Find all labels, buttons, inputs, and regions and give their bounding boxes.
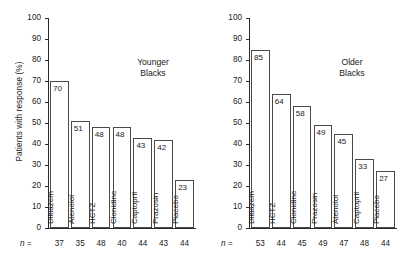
y-tick bbox=[246, 144, 249, 145]
y-tick-label: 50 bbox=[17, 119, 41, 127]
y-tick bbox=[246, 39, 249, 40]
y-tick-label: 30 bbox=[17, 161, 41, 169]
bar-category-label: Prazosin bbox=[311, 193, 319, 224]
y-tick bbox=[45, 39, 48, 40]
bar-category-label: Placebo bbox=[172, 195, 180, 224]
x-axis-spine bbox=[249, 228, 397, 229]
bar-category-label: Captopril bbox=[131, 192, 139, 224]
y-tick-label: 70 bbox=[17, 77, 41, 85]
y-tick bbox=[246, 60, 249, 61]
bar-value-label: 45 bbox=[337, 137, 346, 146]
bar-value-label: 23 bbox=[178, 183, 187, 192]
bar: 64HCTZ bbox=[272, 94, 291, 228]
y-tick bbox=[246, 228, 249, 229]
x-axis-spine bbox=[48, 228, 196, 229]
y-tick-label: 100 bbox=[218, 14, 242, 22]
y-tick-label: 60 bbox=[218, 98, 242, 106]
bar-category-label: Clonidine bbox=[290, 191, 298, 224]
y-tick bbox=[45, 228, 48, 229]
bar-value-label: 49 bbox=[317, 128, 326, 137]
bar: 43Captopril bbox=[133, 138, 152, 228]
y-tick-label: 90 bbox=[218, 35, 242, 43]
y-tick-label: 70 bbox=[218, 77, 242, 85]
bar-category-label: Placebo bbox=[373, 195, 381, 224]
bar: 23Placebo bbox=[175, 180, 194, 228]
bar: 70Diltiazem bbox=[50, 81, 69, 228]
bars-group: 70Diltiazem51Atenolol48HCTZ48Clonidine43… bbox=[50, 18, 196, 228]
y-tick bbox=[45, 165, 48, 166]
bar: 45Atenolol bbox=[334, 134, 353, 229]
bar: 27Placebo bbox=[376, 171, 395, 228]
bar-value-label: 85 bbox=[254, 53, 263, 62]
y-tick bbox=[45, 186, 48, 187]
y-tick bbox=[246, 18, 249, 19]
bar-value-label: 48 bbox=[95, 130, 104, 139]
y-tick-label: 40 bbox=[218, 140, 242, 148]
y-tick-label: 80 bbox=[17, 56, 41, 64]
y-tick bbox=[246, 186, 249, 187]
bar-value-label: 64 bbox=[275, 97, 284, 106]
bar-category-label: Atenolol bbox=[68, 195, 76, 224]
n-row-label: n = bbox=[20, 239, 32, 248]
chart-panel-older-blacks: Older Blacks 0102030405060708090100 85Di… bbox=[203, 0, 403, 257]
y-tick-label: 30 bbox=[218, 161, 242, 169]
y-tick bbox=[45, 144, 48, 145]
y-tick-label: 100 bbox=[17, 14, 41, 22]
bar-value-label: 42 bbox=[157, 143, 166, 152]
y-tick-label: 60 bbox=[17, 98, 41, 106]
n-value: 44 bbox=[373, 239, 397, 248]
y-tick-label: 20 bbox=[17, 182, 41, 190]
y-tick-label: 40 bbox=[17, 140, 41, 148]
bar-value-label: 27 bbox=[379, 174, 388, 183]
bar-category-label: Clonidine bbox=[110, 191, 118, 224]
bar-value-label: 70 bbox=[53, 84, 62, 93]
bar-category-label: Diltiazem bbox=[47, 191, 55, 224]
y-tick-label: 80 bbox=[218, 56, 242, 64]
y-tick bbox=[45, 18, 48, 19]
y-tick-label: 10 bbox=[218, 203, 242, 211]
y-tick bbox=[246, 165, 249, 166]
y-tick-label: 0 bbox=[218, 224, 242, 232]
y-tick-label: 10 bbox=[17, 203, 41, 211]
bar: 58Clonidine bbox=[293, 106, 312, 228]
bar-category-label: HCTZ bbox=[89, 203, 97, 224]
y-tick-label: 20 bbox=[218, 182, 242, 190]
y-tick bbox=[246, 102, 249, 103]
bar-category-label: Prazosin bbox=[152, 193, 160, 224]
y-tick bbox=[45, 102, 48, 103]
bar-value-label: 33 bbox=[358, 162, 367, 171]
bar: 48Clonidine bbox=[113, 127, 132, 228]
chart-panel-younger-blacks: Patients with response (%) Younger Black… bbox=[0, 0, 203, 257]
bar: 85Diltiazem bbox=[251, 50, 270, 229]
bar-category-label: HCTZ bbox=[269, 203, 277, 224]
bar-category-label: Captopril bbox=[353, 192, 361, 224]
y-tick-label: 0 bbox=[17, 224, 41, 232]
bar: 49Prazosin bbox=[314, 125, 333, 228]
y-tick bbox=[45, 123, 48, 124]
bar-category-label: Diltiazem bbox=[248, 191, 256, 224]
y-tick bbox=[45, 60, 48, 61]
y-tick bbox=[45, 81, 48, 82]
bar: 48HCTZ bbox=[92, 127, 111, 228]
bar-category-label: Atenolol bbox=[332, 195, 340, 224]
y-tick bbox=[246, 123, 249, 124]
bar-value-label: 58 bbox=[296, 109, 305, 118]
bar-value-label: 48 bbox=[116, 130, 125, 139]
figure-two-panel-bar-charts: Patients with response (%) Younger Black… bbox=[0, 0, 403, 257]
bars-group: 85Diltiazem64HCTZ58Clonidine49Prazosin45… bbox=[251, 18, 397, 228]
bar-value-label: 43 bbox=[136, 141, 145, 150]
y-tick-label: 50 bbox=[218, 119, 242, 127]
y-tick bbox=[246, 81, 249, 82]
y-tick-label: 90 bbox=[17, 35, 41, 43]
bar: 51Atenolol bbox=[71, 121, 90, 228]
n-value: 44 bbox=[172, 239, 196, 248]
n-row-label: n = bbox=[221, 239, 233, 248]
bar-value-label: 51 bbox=[74, 124, 83, 133]
